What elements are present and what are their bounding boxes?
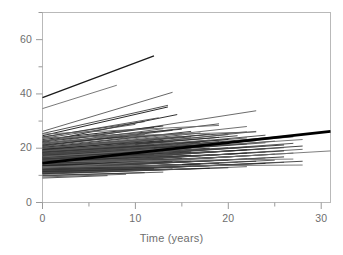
x-tick-label: 10 xyxy=(120,212,150,224)
x-tick-label: 0 xyxy=(28,212,58,224)
y-tick-label: 0 xyxy=(4,196,32,208)
y-tick-label: 60 xyxy=(4,33,32,45)
chart-container: 02040600102030 Time (years) xyxy=(0,0,343,255)
y-tick-label: 40 xyxy=(4,87,32,99)
x-tick-label: 30 xyxy=(306,212,336,224)
y-tick-label: 20 xyxy=(4,141,32,153)
x-axis-title: Time (years) xyxy=(0,232,343,244)
x-tick-label: 20 xyxy=(213,212,243,224)
